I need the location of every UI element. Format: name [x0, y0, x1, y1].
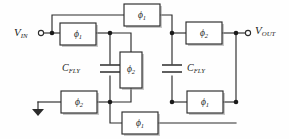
switch-left-input[interactable]: ϕ1 — [60, 23, 98, 47]
ground-triangle — [32, 109, 44, 116]
wire-center-sw-to-nodeE — [110, 88, 131, 102]
node-h-right-rail — [234, 100, 239, 105]
vout-terminal-circle[interactable] — [245, 30, 250, 35]
switch-bottom-center[interactable]: ϕ1 — [122, 112, 160, 136]
switch-bottom-right[interactable]: ϕ1 — [187, 91, 225, 115]
vin-label: VIN — [14, 26, 28, 39]
node-g-vout-junction — [234, 31, 239, 36]
node-d-top-right-plate — [170, 31, 175, 36]
vin-terminal-circle[interactable] — [38, 30, 43, 35]
schematic-canvas: ϕ1 ϕ1 ϕ2 ϕ2 — [0, 0, 289, 139]
node-b-top-left-plate — [108, 31, 113, 36]
cfly-left-label: CFLY — [62, 62, 81, 74]
node-vin-junction — [50, 31, 55, 36]
switch-right-output[interactable]: ϕ2 — [186, 22, 224, 46]
vout-label: VOUT — [255, 24, 277, 37]
switch-center-vertical[interactable]: ϕ2 — [120, 52, 144, 90]
switch-top-center[interactable]: ϕ1 — [124, 4, 162, 28]
node-f-bottom-right-plate — [170, 100, 175, 105]
node-e-bottom-left-plate — [108, 100, 113, 105]
switch-bottom-left-ground[interactable]: ϕ2 — [61, 91, 99, 115]
cfly-right-label: CFLY — [187, 62, 206, 74]
wire-bottom-left-drop — [110, 102, 122, 123]
wire-nodeB-to-center-sw — [110, 33, 131, 52]
circuit-diagram: ϕ1 ϕ1 ϕ2 ϕ2 — [0, 0, 289, 139]
ground-symbol — [32, 109, 44, 116]
